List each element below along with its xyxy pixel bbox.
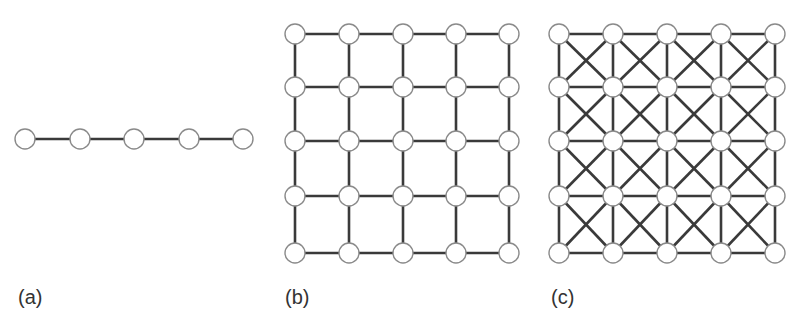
graph-node — [711, 77, 731, 97]
graph-node — [179, 129, 199, 149]
graph-node — [70, 129, 90, 149]
graph-node — [603, 24, 623, 44]
graph-node — [233, 129, 253, 149]
graph-node — [765, 24, 785, 44]
panel-c-label: (c) — [551, 286, 574, 309]
graph-node — [657, 186, 677, 206]
graph-node — [657, 77, 677, 97]
graph-node — [499, 243, 519, 263]
graph-node — [603, 77, 623, 97]
graph-node — [657, 243, 677, 263]
graph-node — [657, 24, 677, 44]
graph-node — [393, 24, 413, 44]
graph-node — [339, 186, 359, 206]
graph-node — [499, 24, 519, 44]
graph-node — [393, 77, 413, 97]
graph-node — [499, 77, 519, 97]
graph-node — [603, 186, 623, 206]
graph-node — [711, 243, 731, 263]
graph-node — [393, 131, 413, 151]
graph-node — [393, 243, 413, 263]
panel-b-square-lattice — [285, 24, 519, 263]
graph-node — [393, 186, 413, 206]
graph-node — [657, 131, 677, 151]
panel-a-label: (a) — [18, 286, 42, 309]
graph-node — [285, 131, 305, 151]
graph-node — [15, 129, 35, 149]
graph-node — [446, 77, 466, 97]
graph-node — [499, 186, 519, 206]
graph-node — [446, 131, 466, 151]
graph-node — [285, 186, 305, 206]
panel-c-diagonal-lattice — [549, 24, 785, 263]
graph-node — [765, 131, 785, 151]
graph-node — [446, 186, 466, 206]
graph-node — [285, 77, 305, 97]
graph-node — [549, 131, 569, 151]
graph-node — [339, 77, 359, 97]
graph-node — [339, 243, 359, 263]
graph-node — [711, 186, 731, 206]
graph-node — [765, 186, 785, 206]
graph-node — [549, 186, 569, 206]
graph-node — [765, 243, 785, 263]
graph-node — [711, 131, 731, 151]
graph-node — [499, 131, 519, 151]
graph-node — [549, 77, 569, 97]
graph-node — [711, 24, 731, 44]
panel-b-label: (b) — [285, 286, 309, 309]
graph-node — [339, 131, 359, 151]
graph-node — [339, 24, 359, 44]
graph-node — [285, 24, 305, 44]
graph-node — [124, 129, 144, 149]
graph-node — [446, 243, 466, 263]
graph-node — [603, 131, 623, 151]
panel-a-chain — [15, 129, 253, 149]
graph-node — [285, 243, 305, 263]
graph-node — [549, 24, 569, 44]
graph-node — [549, 243, 569, 263]
graph-node — [603, 243, 623, 263]
graph-node — [765, 77, 785, 97]
graph-node — [446, 24, 466, 44]
figure-canvas — [0, 0, 795, 318]
